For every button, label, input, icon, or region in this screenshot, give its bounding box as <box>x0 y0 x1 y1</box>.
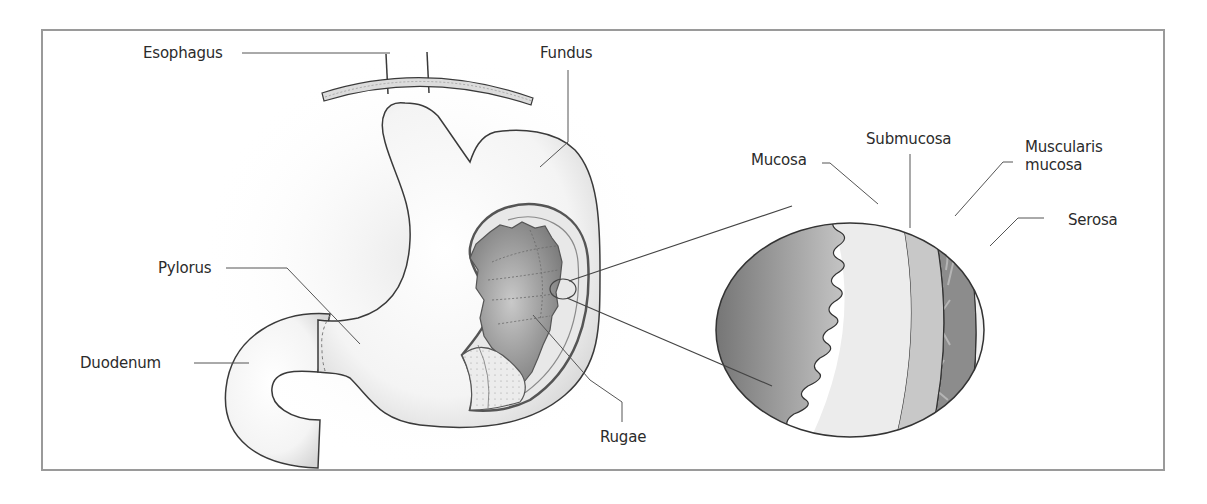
label-esophagus: Esophagus <box>143 44 223 62</box>
label-muscularis-line2: mucosa <box>1025 156 1145 174</box>
label-pylorus: Pylorus <box>158 259 211 277</box>
label-rugae: Rugae <box>600 428 646 446</box>
stomach-anatomy-figure: Esophagus Fundus Pylorus Duodenum Rugae … <box>0 0 1207 504</box>
label-duodenum: Duodenum <box>80 354 161 372</box>
label-submucosa: Submucosa <box>866 130 951 148</box>
wall-layers-magnified <box>700 200 1000 460</box>
label-mucosa: Mucosa <box>751 151 807 169</box>
label-serosa: Serosa <box>1068 211 1118 229</box>
label-muscularis-line1: Muscularis <box>1025 138 1145 156</box>
label-muscularis-mucosa: Muscularis mucosa <box>1025 138 1145 174</box>
label-fundus: Fundus <box>540 44 592 62</box>
